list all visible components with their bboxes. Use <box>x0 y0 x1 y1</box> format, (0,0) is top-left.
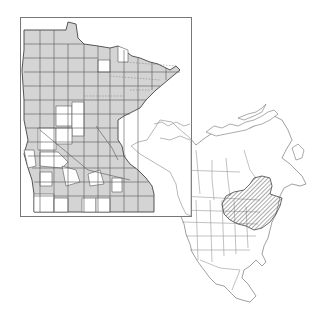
distribution-map-figure <box>0 0 326 318</box>
newfoundland <box>292 144 304 160</box>
minnesota-panel <box>21 18 192 217</box>
